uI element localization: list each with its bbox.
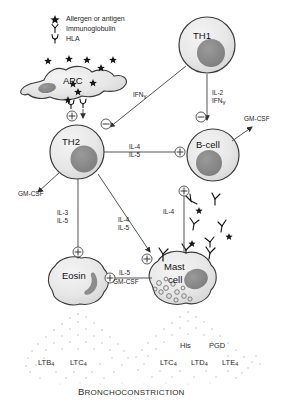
- gm-csf-th2-label: GM-CSF: [18, 190, 44, 197]
- il5-th2-bcell-label: IL-5: [129, 151, 140, 158]
- plus-th2-eosin: [73, 247, 83, 257]
- mast-label-line2: cell: [168, 274, 182, 285]
- th2-cell: [50, 125, 104, 179]
- il4-mast-label: IL-4: [118, 216, 129, 223]
- il3-eosin-label: IL-3: [57, 209, 68, 216]
- mediator-lte4: LTE4: [222, 358, 238, 367]
- plus-bcell-ige: [179, 186, 189, 196]
- ifn-gamma-bcell-label: IFNγ: [212, 97, 225, 106]
- mast-cell: [149, 251, 216, 304]
- gm-csf-bcell-label: GM-CSF: [244, 115, 270, 122]
- minus-th1-bcell: [196, 112, 206, 122]
- plus-th2-bcell: [175, 147, 185, 157]
- legend-item-allergen-label: Allergen or antigen: [66, 14, 125, 23]
- il5-mast-label: IL-5: [118, 224, 129, 231]
- arrow-th1-to-th2: [110, 66, 186, 127]
- apc-hla-icons: [68, 99, 86, 109]
- il2-label: IL-2: [212, 89, 223, 96]
- caption-spray: [59, 382, 210, 384]
- legend-star-icon: [50, 15, 59, 24]
- legend-item-hla-label: HLA: [66, 34, 80, 43]
- pathway-svg: [0, 0, 283, 403]
- diagram-canvas: Allergen or antigen Immunoglobulin HLA A…: [0, 0, 283, 403]
- arrow-bcell-gmcsf: [232, 127, 252, 141]
- legend-immunoglobulin-icon: [52, 25, 58, 33]
- mediator-spray-left: [25, 313, 128, 378]
- b-cell: [187, 129, 239, 181]
- legend-item-immunoglobulin-label: Immunoglobulin: [66, 24, 115, 33]
- mediator-ltd4: LTD4: [191, 358, 208, 367]
- eosin-label: Eosin: [62, 270, 86, 281]
- mediator-ltc4-right: LTC4: [160, 358, 177, 367]
- legend-hla-icon: [52, 35, 58, 44]
- apc-label: APC: [63, 75, 83, 86]
- il4-ige-label: IL-4: [163, 208, 174, 215]
- mediator-pgd: PGD: [209, 341, 225, 350]
- plus-apc-th2: [67, 111, 77, 121]
- mediator-ltb4: LTB4: [38, 358, 54, 367]
- minus-th1-th2: [101, 119, 111, 129]
- il5-eosin-label: IL-5: [57, 217, 68, 224]
- th2-label: TH2: [62, 136, 80, 147]
- bronchoconstriction-caption: BRONCHOCONSTRICTION: [78, 386, 185, 397]
- mediator-ltc4-left: LTC4: [70, 358, 87, 367]
- mast-label-line1: Mast: [164, 261, 185, 272]
- mediator-spray-right: [135, 311, 260, 378]
- bcell-label: B-cell: [196, 139, 220, 150]
- th1-label: TH1: [193, 30, 211, 41]
- il4-th2-bcell-label: IL-4: [129, 143, 140, 150]
- arrow-th2-gmcsf: [38, 172, 60, 192]
- th1-cell: [179, 17, 235, 73]
- ifn-gamma-th2-label: IFNγ: [133, 91, 146, 100]
- gm-csf-crosstalk-label: GM-CSF: [113, 278, 139, 285]
- mediator-his: His: [180, 341, 191, 350]
- il5-crosstalk-label: IL-5: [119, 269, 130, 276]
- plus-th2-mast: [142, 254, 152, 264]
- arrow-th2-to-mast: [98, 174, 150, 252]
- free-immunoglobulin-icons: [186, 193, 226, 247]
